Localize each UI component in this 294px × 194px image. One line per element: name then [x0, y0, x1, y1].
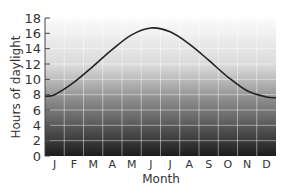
- x-tick-label: J: [148, 158, 152, 171]
- y-tick-label: 12: [24, 57, 41, 72]
- y-tick-label: 2: [33, 133, 41, 148]
- x-tick-label: J: [52, 158, 56, 171]
- x-axis: JFMAMJJASOND: [52, 158, 271, 171]
- y-tick-label: 0: [33, 149, 41, 164]
- x-tick-label: O: [224, 158, 233, 171]
- x-axis-label: Month: [142, 172, 180, 186]
- y-tick-label: 16: [24, 26, 41, 41]
- x-tick-label: M: [127, 158, 137, 171]
- y-tick-label: 18: [24, 11, 41, 26]
- x-tick-label: N: [243, 158, 251, 171]
- x-tick-label: F: [71, 158, 77, 171]
- y-tick-label: 10: [24, 72, 41, 87]
- y-tick-label: 6: [33, 103, 41, 118]
- y-tick-label: 4: [33, 118, 41, 133]
- x-tick-label: A: [186, 158, 194, 171]
- y-axis-label: Hours of daylight: [9, 35, 23, 138]
- x-tick-label: J: [168, 158, 172, 171]
- x-tick-label: D: [262, 158, 270, 171]
- daylight-chart: 024681012141618 JFMAMJJASOND Hours of da…: [0, 0, 294, 194]
- x-tick-label: M: [88, 158, 98, 171]
- y-tick-label: 14: [24, 41, 41, 56]
- y-tick-label: 8: [33, 87, 41, 102]
- x-tick-label: A: [109, 158, 117, 171]
- x-tick-label: S: [205, 158, 212, 171]
